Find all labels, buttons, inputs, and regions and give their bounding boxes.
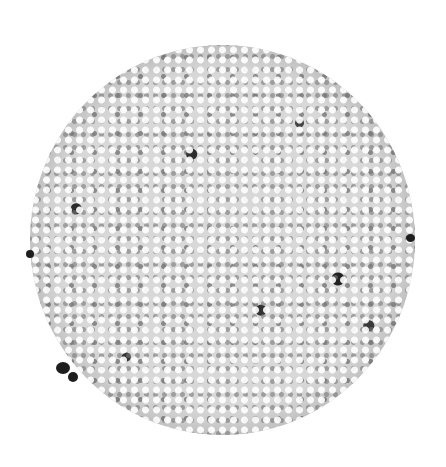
stray-seed xyxy=(406,234,415,242)
stray-seed xyxy=(26,250,34,258)
seed-pile xyxy=(30,45,415,435)
stray-seed xyxy=(56,362,70,374)
stray-seed xyxy=(68,372,78,382)
seed-texture xyxy=(30,45,415,435)
